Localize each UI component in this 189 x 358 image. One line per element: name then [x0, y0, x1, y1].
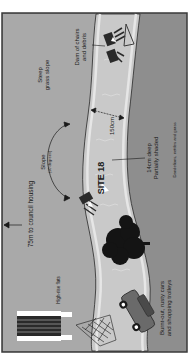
housing-label: 75m to council housing [27, 180, 35, 247]
steep-label-1: Steep [37, 67, 43, 83]
depth-label-1: 14cm deep [146, 142, 152, 172]
flats-label: High-rise flats [56, 276, 61, 304]
cars-label-1: Burnt-out, rusty cars [159, 281, 165, 335]
width-label: 150cm [109, 117, 115, 135]
dam-label-1: Dam of chairs [74, 28, 80, 65]
slope-label-1: Slope [40, 154, 46, 170]
site-diagram: SITE 18 150cm 14cm deep Partially shaded… [0, 0, 189, 358]
slope-label-2: (10 degrees) [47, 150, 52, 173]
vegetation-label: Dandelions, nettles and grass [172, 122, 177, 177]
dam-label-2: and debris [81, 33, 87, 61]
steep-label-2: grass slope [44, 59, 50, 90]
cars-label-2: and shopping trolleys [166, 280, 172, 337]
site-title: SITE 18 [96, 162, 106, 195]
depth-label-2: Partially shaded [153, 137, 159, 180]
